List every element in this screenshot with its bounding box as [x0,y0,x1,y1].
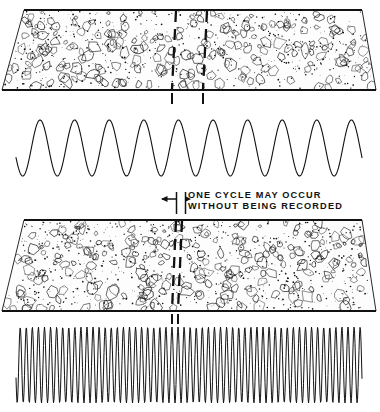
aggregate-grain [284,79,285,80]
aggregate-grain [70,35,71,36]
aggregate-grain [331,48,332,49]
aggregate-grain [61,277,63,279]
aggregate-grain [290,13,291,14]
aggregate-grain [240,14,241,15]
aggregate-grain [249,268,250,269]
aggregate-grain [138,240,139,241]
aggregate-grain [220,262,221,263]
aggregate-grain [287,278,288,279]
aggregate-grain [318,230,319,231]
aggregate-grain [15,72,16,73]
aggregate-grain [161,72,162,73]
aggregate-grain [346,64,348,66]
aggregate-grain [297,263,299,265]
aggregate-grain [152,226,153,227]
aggregate-grain [87,290,88,291]
aggregate-grain [360,38,361,39]
aggregate-grain [49,270,50,271]
aggregate-grain [104,232,105,233]
aggregate-grain [44,258,46,260]
aggregate-grain [25,68,26,69]
aggregate-grain [314,69,315,70]
aggregate-grain [301,50,302,51]
aggregate-grain [223,231,225,233]
aggregate-grain [315,271,317,273]
aggregate-grain [33,43,34,44]
aggregate-grain [309,43,310,44]
aggregate-grain [151,276,153,278]
aggregate-grain [290,266,291,267]
aggregate-grain [282,16,283,17]
aggregate-grain [169,249,170,250]
aggregate-grain [105,55,106,56]
aggregate-grain [269,35,271,37]
aggregate-grain [199,28,200,29]
aggregate-grain [251,18,252,19]
aggregate-grain [82,239,83,240]
aggregate-grain [101,265,103,267]
aggregate-grain [20,299,22,301]
aggregate-grain [263,245,264,246]
aggregate-grain [129,247,130,248]
aggregate-grain [283,304,284,305]
aggregate-grain [15,51,16,52]
aggregate-grain [144,243,145,244]
aggregate-grain [298,232,299,233]
aggregate-grain [229,252,230,253]
aggregate-grain [339,76,340,77]
aggregate-grain [341,246,342,247]
aggregate-grain [352,33,354,35]
aggregate-grain [50,222,51,223]
aggregate-grain [193,82,194,83]
aggregate-grain [280,263,281,264]
aggregate-grain [64,76,65,77]
aggregate-grain [110,222,111,223]
aggregate-grain [223,50,224,51]
aggregate-grain [157,33,159,35]
aggregate-grain [156,297,157,298]
aggregate-grain [65,31,67,33]
aggregate-grain [266,71,267,72]
aggregate-grain [157,303,159,305]
aggregate-grain [54,33,55,34]
aggregate-grain [17,87,19,89]
aggregate-grain [38,297,39,298]
aggregate-grain [185,240,186,241]
aggregate-grain [134,291,135,292]
sampling-diagram-figure: ONE CYCLE MAY OCCUR WITHOUT BEING RECORD… [0,0,380,412]
aggregate-grain [227,79,228,80]
aggregate-grain [108,35,110,37]
aggregate-grain [311,283,312,284]
aggregate-grain [30,85,32,87]
aggregate-grain [190,271,191,272]
aggregate-grain [70,32,71,33]
aggregate-grain [107,278,108,279]
aggregate-grain [349,232,350,233]
aggregate-grain [95,63,96,64]
aggregate-grain [236,299,237,300]
aggregate-grain [76,230,78,232]
aggregate-grain [311,73,313,75]
aggregate-grain [90,82,92,84]
aggregate-grain [45,231,47,233]
aggregate-grain [338,263,339,264]
aggregate-grain [180,32,181,33]
aggregate-grain [87,226,88,227]
aggregate-grain [39,71,40,72]
aggregate-grain [245,250,246,251]
aggregate-grain [352,229,354,231]
aggregate-grain [354,50,355,51]
aggregate-grain [353,226,355,228]
aggregate-grain [249,86,250,87]
aggregate-grain [284,12,285,13]
aggregate-grain [328,229,330,231]
aggregate-grain [184,250,185,251]
aggregate-grain [275,297,276,298]
aggregate-grain [193,271,195,273]
aggregate-grain [80,240,81,241]
aggregate-grain [123,22,124,23]
aggregate-grain [309,245,311,247]
aggregate-grain [352,292,353,293]
aggregate-grain [199,71,200,72]
aggregate-grain [312,230,314,232]
